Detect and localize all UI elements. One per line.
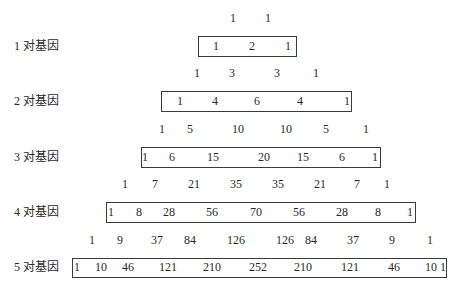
intermediate-value: 84 (184, 233, 196, 247)
intermediate-value: 10 (232, 122, 244, 136)
intermediate-value: 9 (389, 233, 395, 247)
gene-row-value: 10 (425, 260, 437, 274)
intermediate-value: 126 (276, 233, 294, 247)
gene-pair-label: 2 对基因 (14, 94, 59, 108)
gene-row-value: 1 (285, 39, 291, 53)
intermediate-value: 1 (122, 177, 128, 191)
intermediate-value: 7 (354, 177, 360, 191)
intermediate-value: 84 (305, 233, 317, 247)
intermediate-value: 1 (194, 66, 200, 80)
gene-pair-label: 4 对基因 (14, 205, 59, 219)
gene-row-value: 252 (249, 260, 267, 274)
gene-row-value: 1 (372, 150, 378, 164)
intermediate-value: 3 (229, 66, 235, 80)
intermediate-value: 126 (227, 233, 245, 247)
gene-row-value: 6 (339, 150, 345, 164)
intermediate-value: 5 (187, 122, 193, 136)
gene-pair-label: 1 对基因 (14, 39, 59, 53)
gene-row-value: 70 (250, 205, 262, 219)
gene-row-value: 1 (108, 205, 114, 219)
gene-row-value: 121 (159, 260, 177, 274)
gene-pair-label: 5 对基因 (14, 260, 59, 274)
intermediate-value: 1 (363, 122, 369, 136)
gene-row-value: 56 (206, 205, 218, 219)
intermediate-value: 37 (347, 233, 359, 247)
gene-diagram: 111 对基因12113312 对基因14641151010513 对基因161… (0, 0, 454, 290)
gene-row-value: 210 (294, 260, 312, 274)
gene-row-value: 8 (375, 205, 381, 219)
intermediate-value: 5 (323, 122, 329, 136)
gene-row-value: 1 (213, 39, 219, 53)
gene-row-value: 28 (163, 205, 175, 219)
gene-row-value: 10 (95, 260, 107, 274)
gene-row-value: 1 (344, 94, 350, 108)
gene-row-value: 1 (407, 205, 413, 219)
gene-row-value: 6 (169, 150, 175, 164)
intermediate-value: 21 (314, 177, 326, 191)
intermediate-value: 21 (188, 177, 200, 191)
intermediate-value: 7 (152, 177, 158, 191)
gene-row-value: 121 (341, 260, 359, 274)
intermediate-value: 1 (89, 233, 95, 247)
gene-row-value: 15 (297, 150, 309, 164)
intermediate-value: 3 (274, 66, 280, 80)
intermediate-value: 1 (159, 122, 165, 136)
intermediate-value: 10 (280, 122, 292, 136)
gene-row-value: 6 (254, 94, 260, 108)
gene-row-value: 4 (297, 94, 303, 108)
gene-row-value: 56 (293, 205, 305, 219)
intermediate-value: 1 (265, 11, 271, 25)
gene-row-value: 8 (136, 205, 142, 219)
gene-row-value: 46 (388, 260, 400, 274)
intermediate-value: 35 (230, 177, 242, 191)
gene-row-value: 20 (258, 150, 270, 164)
gene-row-value: 4 (212, 94, 218, 108)
gene-row-value: 1 (74, 260, 80, 274)
intermediate-value: 35 (272, 177, 284, 191)
gene-row-value: 15 (207, 150, 219, 164)
intermediate-value: 1 (384, 177, 390, 191)
gene-row-value: 28 (336, 205, 348, 219)
gene-row-value: 2 (249, 39, 255, 53)
intermediate-value: 1 (427, 233, 433, 247)
gene-row-value: 210 (203, 260, 221, 274)
gene-row-value: 46 (122, 260, 134, 274)
gene-pair-label: 3 对基因 (14, 150, 59, 164)
intermediate-value: 9 (117, 233, 123, 247)
intermediate-value: 37 (151, 233, 163, 247)
gene-row-value: 1 (142, 150, 148, 164)
gene-row-value: 1 (177, 94, 183, 108)
intermediate-value: 1 (230, 11, 236, 25)
gene-row-value: 1 (440, 260, 446, 274)
intermediate-value: 1 (313, 66, 319, 80)
